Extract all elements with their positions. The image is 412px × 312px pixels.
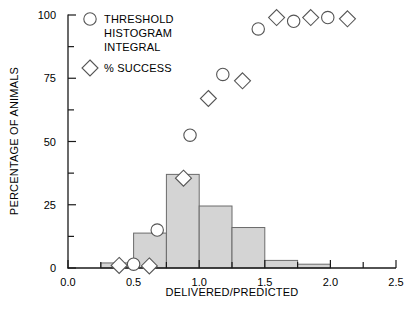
y-axis-title: PERCENTAGE OF ANIMALS (8, 67, 20, 215)
data-point-circle (322, 11, 334, 23)
x-axis-title: DELIVERED/PREDICTED (166, 286, 299, 298)
histogram-bar (265, 260, 298, 268)
y-tick-label: 100 (38, 9, 56, 21)
data-point-circle (184, 129, 196, 141)
chart-figure: 02550751000.00.51.01.52.02.5 DELIVERED/P… (0, 0, 412, 312)
histogram-success-chart: 02550751000.00.51.01.52.02.5 DELIVERED/P… (0, 0, 412, 312)
x-tick-label: 0.5 (126, 276, 141, 288)
histogram-bar (232, 228, 265, 268)
x-tick-label: 0.0 (60, 276, 75, 288)
legend-label-success: % SUCCESS (104, 62, 172, 74)
legend-circle-icon (84, 13, 96, 25)
data-point-circle (127, 258, 139, 270)
data-point-circle (151, 224, 163, 236)
y-tick-label: 25 (44, 199, 56, 211)
data-point-circle (252, 23, 264, 35)
x-tick-label: 2.0 (323, 276, 338, 288)
histogram-bar (199, 206, 232, 268)
y-tick-label: 0 (50, 262, 56, 274)
data-point-circle (287, 15, 299, 27)
data-point-circle (217, 68, 229, 80)
legend-label-threshold-line2: HISTOGRAM (104, 27, 172, 39)
histogram-bar (166, 174, 199, 268)
legend-label-threshold-line1: THRESHOLD (104, 13, 174, 25)
y-tick-label: 75 (44, 72, 56, 84)
legend-label-threshold-line3: INTEGRAL (104, 41, 161, 53)
y-tick-label: 50 (44, 136, 56, 148)
x-tick-label: 2.5 (388, 276, 403, 288)
